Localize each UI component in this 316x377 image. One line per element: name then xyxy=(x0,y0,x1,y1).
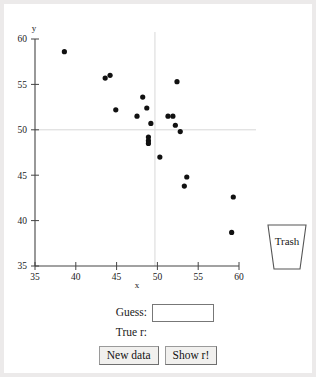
data-point[interactable] xyxy=(231,194,236,199)
data-point[interactable] xyxy=(140,95,145,100)
guess-row: Guess: xyxy=(4,302,312,322)
plot-svg[interactable]: 354045505560 354045505560 y x xyxy=(4,4,264,294)
y-tick-label: 45 xyxy=(18,171,28,181)
data-point[interactable] xyxy=(157,154,162,159)
data-point[interactable] xyxy=(173,123,178,128)
y-tick-label: 50 xyxy=(18,125,28,135)
controls-panel: Guess: True r: New data Show r! xyxy=(4,302,312,365)
x-tick-label: 55 xyxy=(193,272,203,282)
button-row: New data Show r! xyxy=(4,346,312,365)
data-point[interactable] xyxy=(174,79,179,84)
y-axis-label: y xyxy=(32,23,37,33)
data-point[interactable] xyxy=(107,73,112,78)
x-tick-label: 60 xyxy=(234,272,244,282)
guide-lines xyxy=(35,32,256,266)
true-r-row: True r: xyxy=(4,322,312,342)
data-points[interactable] xyxy=(62,49,236,235)
new-data-button[interactable]: New data xyxy=(99,346,159,365)
scatter-plot[interactable]: 354045505560 354045505560 y x xyxy=(4,4,264,294)
y-tick-label: 40 xyxy=(18,216,28,226)
y-tick-label: 55 xyxy=(18,80,28,90)
x-tick-label: 50 xyxy=(153,272,163,282)
data-point[interactable] xyxy=(229,230,234,235)
data-point[interactable] xyxy=(144,105,149,110)
x-tick-label: 35 xyxy=(30,272,40,282)
x-tick-label: 45 xyxy=(112,272,122,282)
data-point[interactable] xyxy=(113,107,118,112)
y-axis-ticks: 354045505560 xyxy=(18,34,40,271)
guess-label: Guess: xyxy=(94,306,152,318)
data-point[interactable] xyxy=(62,49,67,54)
y-tick-label: 60 xyxy=(18,34,28,44)
true-r-value-wrap xyxy=(152,323,222,341)
data-point[interactable] xyxy=(184,174,189,179)
data-point[interactable] xyxy=(178,129,183,134)
data-point[interactable] xyxy=(165,114,170,119)
trash-label: Trash xyxy=(262,235,312,247)
page-container: 354045505560 354045505560 y x Trash Gues… xyxy=(4,4,312,373)
data-point[interactable] xyxy=(182,183,187,188)
x-axis-label: x xyxy=(135,280,140,290)
guess-input-wrap xyxy=(152,303,222,322)
data-point[interactable] xyxy=(134,114,139,119)
trash-can-shape[interactable] xyxy=(268,225,306,269)
data-point[interactable] xyxy=(146,141,151,146)
x-tick-label: 40 xyxy=(71,272,81,282)
data-point[interactable] xyxy=(170,114,175,119)
x-axis-ticks: 354045505560 xyxy=(30,262,244,282)
data-point[interactable] xyxy=(148,121,153,126)
guess-input[interactable] xyxy=(152,304,214,322)
trash-can[interactable]: Trash xyxy=(262,221,312,273)
show-r-button[interactable]: Show r! xyxy=(165,346,218,365)
trash-can-icon[interactable] xyxy=(262,221,312,273)
data-point[interactable] xyxy=(103,75,108,80)
y-tick-label: 35 xyxy=(18,261,28,271)
true-r-label: True r: xyxy=(94,326,152,338)
axes xyxy=(35,39,239,266)
